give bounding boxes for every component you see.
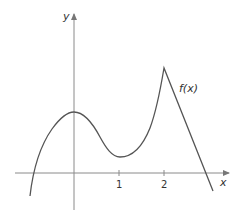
y-axis-label: y [62,10,70,23]
function-graph: y x 1 2 f(x) [0,0,237,218]
x-tick-label-1: 1 [116,179,122,190]
function-label: f(x) [179,82,198,95]
x-tick-label-2: 2 [161,179,167,190]
x-axis-label: x [219,176,227,189]
